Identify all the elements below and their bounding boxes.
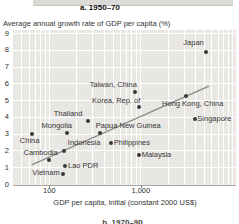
y-tick-label-0: 0 (0, 181, 9, 189)
y-tick-label-6: 6 (0, 80, 9, 88)
y-tick-label-8: 8 (0, 46, 9, 54)
y-tick-label-7: 7 (0, 63, 9, 71)
figure-panel: a. 1950–70 Average annual growth rate of… (0, 0, 239, 224)
x-tick-label-100: 100 (43, 187, 56, 195)
y-tick-label-9: 9 (0, 30, 9, 38)
y-tick-label-2: 2 (0, 147, 9, 155)
next-panel-title-clipped: b. 1970–90 (0, 218, 239, 224)
axes-layer: 01234567891001,000 (0, 0, 239, 224)
y-tick-label-4: 4 (0, 113, 9, 121)
y-tick-label-1: 1 (0, 164, 9, 172)
x-tick-label-1-000: 1,000 (131, 187, 150, 195)
y-tick-label-5: 5 (0, 97, 9, 105)
x-axis-title: GDP per capita, initial (constant 2000 U… (0, 198, 239, 207)
y-tick-label-3: 3 (0, 130, 9, 138)
